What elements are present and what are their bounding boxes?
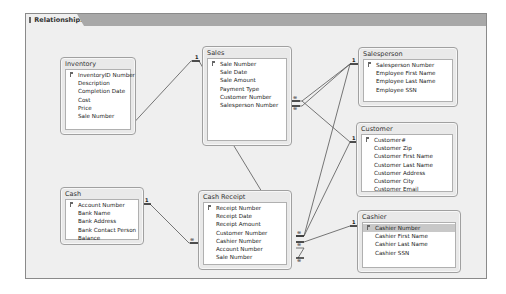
field-primary-key-selected[interactable]: Cashier Number <box>363 224 455 232</box>
field[interactable]: Cost <box>66 96 130 104</box>
field[interactable]: Price <box>66 104 130 112</box>
table-cash-receipt[interactable]: Cash Receipt Receipt Number Receipt Date… <box>198 190 292 270</box>
field[interactable]: Employee Last Name <box>364 77 452 85</box>
field[interactable]: Salesperson Number <box>208 101 286 109</box>
field[interactable]: Employee SSN <box>364 86 452 94</box>
field-list: Cashier Number Cashier First Name Cashie… <box>362 222 456 268</box>
field[interactable]: Customer Address <box>362 169 452 177</box>
field-list: Account Number Bank Name Bank Address Ba… <box>65 199 139 240</box>
table-inventory[interactable]: Inventory InventoryID Number Description… <box>60 57 136 135</box>
table-cashier[interactable]: Cashier Cashier Number Cashier First Nam… <box>357 210 461 273</box>
table-title: Sales <box>203 47 291 57</box>
table-salesperson[interactable]: Salesperson Salesperson Number Employee … <box>358 47 458 107</box>
table-title: Cash <box>61 188 143 198</box>
field[interactable]: Sale Amount <box>208 76 286 84</box>
field[interactable]: Customer First Name <box>362 152 452 160</box>
field[interactable]: Receipt Amount <box>204 220 286 228</box>
field-primary-key[interactable]: Sale Number <box>208 60 286 68</box>
field[interactable]: Bank Contact Person <box>66 226 138 234</box>
field-primary-key[interactable]: InventoryID Number <box>66 71 130 79</box>
field[interactable]: Customer Number <box>208 93 286 101</box>
tab-label: Relationships <box>34 16 84 24</box>
tab-relationships[interactable]: Relationships <box>26 14 84 26</box>
field[interactable]: Cashier Last Name <box>363 240 455 248</box>
table-title: Customer <box>357 123 457 133</box>
field[interactable]: Customer Number <box>204 229 286 237</box>
field-list: Receipt Number Receipt Date Receipt Amou… <box>203 202 287 265</box>
field[interactable]: Sale Number <box>204 253 286 261</box>
field[interactable]: Sale Date <box>208 68 286 76</box>
field[interactable]: Sale Number <box>66 112 130 120</box>
table-title: Cash Receipt <box>199 191 291 201</box>
field-list: Sale Number Sale Date Sale Amount Paymen… <box>207 58 287 141</box>
field[interactable]: Customer City <box>362 177 452 185</box>
field[interactable]: Customer Zip <box>362 144 452 152</box>
field-list: Salesperson Number Employee First Name E… <box>363 59 453 102</box>
field[interactable]: Employee First Name <box>364 69 452 77</box>
relationships-icon <box>29 17 31 23</box>
field[interactable]: Account Number <box>204 245 286 253</box>
field-primary-key[interactable]: Customer# <box>362 136 452 144</box>
field[interactable]: Customer Email <box>362 185 452 193</box>
field[interactable]: Cashier First Name <box>363 232 455 240</box>
field[interactable]: Balance <box>66 234 138 242</box>
field[interactable]: Payment Type <box>208 85 286 93</box>
document-tab-bar: Relationships <box>26 14 486 26</box>
field[interactable]: Description <box>66 79 130 87</box>
field[interactable]: Customer Last Name <box>362 161 452 169</box>
table-cash[interactable]: Cash Account Number Bank Name Bank Addre… <box>60 187 144 245</box>
field-primary-key[interactable]: Salesperson Number <box>364 61 452 69</box>
field[interactable]: Bank Address <box>66 217 138 225</box>
field-list: Customer# Customer Zip Customer First Na… <box>361 134 453 192</box>
field-primary-key[interactable]: Account Number <box>66 201 138 209</box>
table-customer[interactable]: Customer Customer# Customer Zip Customer… <box>356 122 458 197</box>
field[interactable]: Cashier SSN <box>363 249 455 257</box>
table-title: Cashier <box>358 211 460 221</box>
field-list: InventoryID Number Description Completio… <box>65 69 131 130</box>
table-sales[interactable]: Sales Sale Number Sale Date Sale Amount … <box>202 46 292 146</box>
table-title: Salesperson <box>359 48 457 58</box>
table-title: Inventory <box>61 58 135 68</box>
field[interactable]: Receipt Date <box>204 212 286 220</box>
field[interactable]: Cashier Number <box>204 237 286 245</box>
field[interactable]: Completion Date <box>66 87 130 95</box>
field[interactable]: Bank Name <box>66 209 138 217</box>
field-primary-key[interactable]: Receipt Number <box>204 204 286 212</box>
